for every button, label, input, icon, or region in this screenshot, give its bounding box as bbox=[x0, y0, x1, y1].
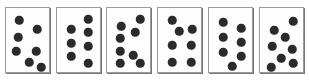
card-2-dot-3 bbox=[84, 28, 93, 37]
card-5-dot-7 bbox=[228, 62, 237, 71]
card-4-dot-3 bbox=[188, 25, 197, 34]
card-2-dot-6 bbox=[67, 52, 76, 61]
card-1-dot-4 bbox=[12, 47, 21, 56]
card-6-face bbox=[260, 8, 303, 72]
card-5-dot-5 bbox=[219, 48, 228, 57]
card-4-dot-2 bbox=[175, 27, 184, 36]
card-5-dot-3 bbox=[219, 33, 228, 42]
card-5-face bbox=[209, 8, 252, 72]
card-4-face bbox=[158, 8, 201, 72]
card-1-dot-7 bbox=[37, 63, 46, 72]
card-6-dot-5 bbox=[288, 45, 297, 54]
card-4[interactable] bbox=[157, 7, 202, 73]
card-1-dot-6 bbox=[25, 58, 34, 67]
card-2-dot-5 bbox=[84, 42, 93, 51]
card-5-dot-4 bbox=[237, 38, 246, 47]
card-4-dot-4 bbox=[168, 41, 177, 50]
card-6-dot-2 bbox=[270, 26, 279, 35]
card-3-dot-7 bbox=[116, 59, 125, 68]
card-3-dot-4 bbox=[116, 34, 125, 43]
card-1-dot-3 bbox=[14, 33, 23, 42]
card-3-dot-1 bbox=[136, 15, 145, 24]
card-6-dot-8 bbox=[289, 59, 298, 68]
card-3-dot-8 bbox=[136, 59, 145, 68]
card-2-dot-4 bbox=[67, 39, 76, 48]
card-4-dot-5 bbox=[187, 41, 196, 50]
card-1-dot-2 bbox=[33, 25, 42, 34]
card-4-dot-1 bbox=[168, 16, 177, 25]
card-1-face bbox=[6, 8, 49, 72]
card-2[interactable] bbox=[56, 7, 101, 73]
card-2-dot-2 bbox=[67, 25, 76, 34]
card-2-dot-1 bbox=[84, 15, 93, 24]
card-6-dot-3 bbox=[281, 33, 290, 42]
card-4-dot-7 bbox=[187, 58, 196, 67]
card-3-dot-6 bbox=[129, 51, 138, 60]
card-5-dot-6 bbox=[237, 52, 246, 61]
card-2-dot-7 bbox=[84, 59, 93, 68]
card-6[interactable] bbox=[259, 7, 304, 73]
card-5-dot-1 bbox=[219, 18, 228, 27]
card-5[interactable] bbox=[208, 7, 253, 73]
card-3-face bbox=[107, 8, 150, 72]
card-4-dot-6 bbox=[168, 58, 177, 67]
card-3-dot-2 bbox=[117, 22, 126, 31]
card-1[interactable] bbox=[5, 7, 50, 73]
card-1-dot-1 bbox=[15, 16, 24, 25]
dot-card-array bbox=[0, 0, 309, 82]
card-2-face bbox=[57, 8, 100, 72]
card-3-dot-3 bbox=[131, 28, 140, 37]
card-6-dot-1 bbox=[289, 17, 298, 26]
card-5-dot-2 bbox=[237, 24, 246, 33]
card-6-dot-4 bbox=[268, 42, 277, 51]
card-1-dot-5 bbox=[32, 47, 41, 56]
card-6-dot-7 bbox=[267, 63, 276, 72]
card-3[interactable] bbox=[106, 7, 151, 73]
card-6-dot-6 bbox=[277, 54, 286, 63]
card-3-dot-5 bbox=[116, 47, 125, 56]
